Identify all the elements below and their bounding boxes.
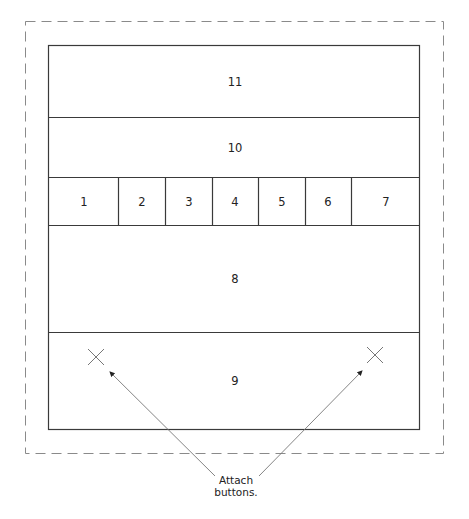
annotation-line-2: buttons. (214, 486, 257, 498)
x-marker-left-icon (88, 349, 104, 365)
section-11-label: 11 (228, 75, 243, 89)
arrow-left-icon (110, 372, 215, 476)
cell-6-label: 6 (324, 195, 331, 209)
diagram-canvas: 11 10 8 9 1 2 3 4 5 6 7 Attach buttons. (0, 0, 469, 519)
cell-4-label: 4 (231, 195, 238, 209)
section-8-label: 8 (231, 272, 238, 286)
section-10-label: 10 (228, 141, 243, 155)
cell-1-label: 1 (80, 195, 87, 209)
cell-5-label: 5 (278, 195, 285, 209)
arrow-right-icon (259, 371, 362, 476)
annotation-line-1: Attach (219, 474, 253, 486)
cell-7-label: 7 (382, 195, 389, 209)
cell-2-label: 2 (138, 195, 145, 209)
x-marker-right-icon (367, 347, 383, 363)
panel-outline (49, 46, 420, 430)
section-9-label: 9 (231, 374, 238, 388)
cell-3-label: 3 (185, 195, 192, 209)
